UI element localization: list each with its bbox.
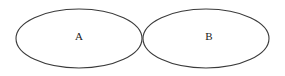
- set-b-label: B: [205, 30, 212, 42]
- venn-diagram: A B: [0, 0, 285, 76]
- set-a-label: A: [75, 30, 83, 42]
